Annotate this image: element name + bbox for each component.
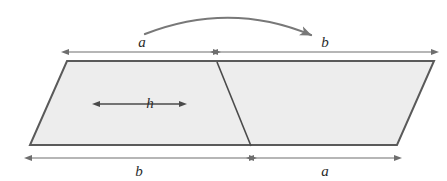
label-top-b: b xyxy=(321,34,329,50)
geometry-figure: a b h b a xyxy=(0,0,447,181)
label-bottom-b: b xyxy=(135,163,143,179)
label-height-h: h xyxy=(146,95,154,111)
figure-canvas: a b h b a xyxy=(0,0,447,181)
label-bottom-a: a xyxy=(321,163,329,179)
rearrangement-arrow-icon xyxy=(145,18,311,35)
parallelogram-shape xyxy=(30,61,434,145)
label-top-a: a xyxy=(138,34,146,50)
